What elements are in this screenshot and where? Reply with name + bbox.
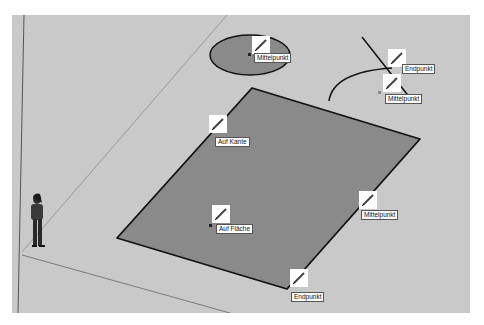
pencil-icon <box>359 191 377 209</box>
pencil-cursor <box>252 36 270 54</box>
pencil-icon <box>383 74 401 92</box>
scale-figure <box>31 193 45 247</box>
inference-tooltip-line-endpoint: Endpunkt <box>402 64 435 74</box>
inference-tooltip-rect-endpoint: Endpunkt <box>291 292 324 302</box>
inference-tooltip-on-face: Auf Fläche <box>216 224 253 234</box>
arc-center-point <box>378 91 381 94</box>
inference-tooltip-on-edge: Auf Kante <box>215 137 250 147</box>
pencil-cursor <box>212 205 230 223</box>
pencil-cursor <box>383 74 401 92</box>
pencil-icon <box>252 36 270 54</box>
rectangle-face[interactable] <box>117 88 420 289</box>
pencil-icon <box>212 205 230 223</box>
pencil-icon <box>290 269 308 287</box>
circle-center-point <box>248 53 251 56</box>
inference-tooltip-circle-center: Mittelpunkt <box>254 53 291 63</box>
inference-tooltip-edge-midpoint: Mittelpunkt <box>361 210 398 220</box>
pencil-cursor <box>290 269 308 287</box>
pencil-cursor <box>359 191 377 209</box>
blue-axis-line <box>18 15 24 313</box>
pencil-icon <box>209 115 227 133</box>
inference-tooltip-arc-center: Mittelpunkt <box>385 94 422 104</box>
face-point <box>209 224 212 227</box>
pencil-cursor <box>209 115 227 133</box>
red-axis-line <box>22 255 230 313</box>
drawing-viewport[interactable]: Mittelpunkt Endpunkt Mittelpunkt Auf Kan… <box>12 15 470 313</box>
